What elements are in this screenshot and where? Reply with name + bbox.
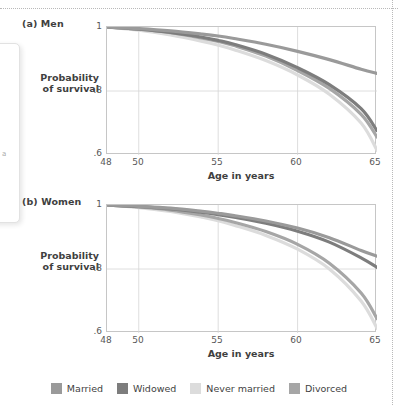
legend-swatch-married [51,383,62,394]
panel-men-xtick-48: 48 [93,157,119,167]
legend-item-widowed: Widowed [117,383,176,394]
panel-men-title: (a) Men [22,18,64,29]
panel-men-xtick-65: 65 [362,157,388,167]
y-axis-title-line1: Probability [27,72,99,83]
legend-item-married: Married [51,383,103,394]
panel-women-xtick-65: 65 [362,335,388,345]
legend-swatch-divorced [289,383,300,394]
panel-women-ytick-08: .8 [78,263,102,273]
panel-women-svg [107,205,377,333]
legend-swatch-widowed [117,383,128,394]
panel-men-xtick-60: 60 [283,157,309,167]
legend-swatch-never-married [190,383,201,394]
panel-men-x-axis-title: Age in years [106,170,376,181]
panel-women-xtick-60: 60 [283,335,309,345]
panel-women-x-axis-title: Age in years [106,348,376,359]
panel-men-xtick-50: 50 [125,157,151,167]
page-top-dotted-border [0,8,398,9]
legend-label-divorced: Divorced [305,383,347,394]
panel-men-ytick-1: 1 [78,21,102,31]
panel-men-svg [107,27,377,155]
panel-men-plot-area [106,26,376,154]
legend-label-married: Married [67,383,103,394]
legend-item-never-married: Never married [190,383,275,394]
panel-women-xtick-55: 55 [204,335,230,345]
panel-men: (a) Men Probability of survival 1 .8 .6 … [0,14,398,192]
panel-women-ytick-1: 1 [78,199,102,209]
legend-label-never-married: Never married [206,383,275,394]
panel-women-xtick-50: 50 [125,335,151,345]
panel-women: (b) Women Probability of survival 1 .8 .… [0,192,398,370]
panel-women-plot-area [106,204,376,332]
legend-label-widowed: Widowed [133,383,176,394]
figure-page: a (a) Men Probability of survival 1 .8 .… [0,0,398,405]
chart-legend: Married Widowed Never married Divorced [0,378,398,398]
panel-men-xtick-55: 55 [204,157,230,167]
panel-women-xtick-48: 48 [93,335,119,345]
legend-item-divorced: Divorced [289,383,347,394]
y-axis-title-line1: Probability [27,250,99,261]
panel-women-title: (b) Women [22,196,81,207]
panel-men-ytick-08: .8 [78,85,102,95]
